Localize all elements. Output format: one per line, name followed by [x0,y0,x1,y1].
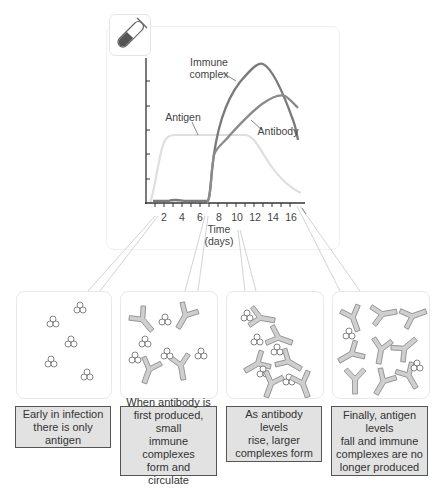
svg-text:8: 8 [216,211,222,223]
x-axis-title-1: Time [208,223,231,235]
small-complexes-illustration [121,292,217,398]
antibody-curve [207,95,298,203]
stage-box-final [332,291,430,399]
connector-lines [88,206,360,291]
caption-early: Early in infectionthere is only antigen [15,406,111,448]
label-antigen: Antigen [165,111,201,123]
line-chart: Immune complex Antigen Antibody 2 4 6 8 … [0,0,445,291]
larger-complexes-illustration [227,292,323,398]
x-tick-labels: 2 4 6 8 10 12 14 16 [161,211,297,223]
caption-small-complexes: When antibody isfirst produced, smallimm… [120,406,217,476]
stage-box-larger-complexes [226,291,324,399]
antigen-illustration [17,292,111,398]
label-antibody: Antibody [258,125,300,137]
svg-text:12: 12 [249,211,261,223]
svg-text:2: 2 [161,211,167,223]
label-immune-complex-1: Immune [190,56,228,68]
stage-box-small-complexes [120,291,218,399]
svg-text:6: 6 [197,211,203,223]
x-axis-title-2: (days) [204,235,233,247]
svg-text:4: 4 [179,211,185,223]
svg-text:10: 10 [231,211,243,223]
caption-larger-complexes: As antibody levelsrise, largercomplexes … [226,406,322,462]
antigen-curve [150,135,301,203]
svg-text:16: 16 [285,211,297,223]
free-antibodies-illustration [333,292,429,398]
stage-box-early [16,291,112,399]
svg-text:14: 14 [267,211,279,223]
label-immune-complex-2: complex [189,68,229,80]
caption-final: Finally, antigen levelsfall and immuneco… [331,406,428,476]
